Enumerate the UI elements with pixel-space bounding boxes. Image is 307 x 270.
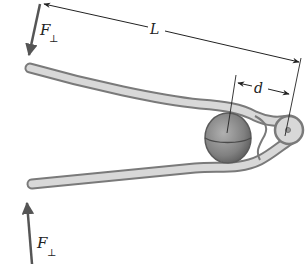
distance-label: d	[254, 80, 263, 96]
nut	[205, 113, 251, 163]
upper-handle	[30, 68, 290, 121]
nutcracker-diagram: L d F ⊥ F ⊥	[0, 0, 307, 270]
bottom-force-subscript: ⊥	[47, 247, 56, 258]
bottom-force-arrow: F ⊥	[27, 203, 56, 264]
length-label: L	[149, 21, 159, 37]
top-force-subscript: ⊥	[49, 33, 58, 44]
lower-handle	[32, 140, 290, 184]
top-force-arrow: F ⊥	[29, 4, 58, 55]
